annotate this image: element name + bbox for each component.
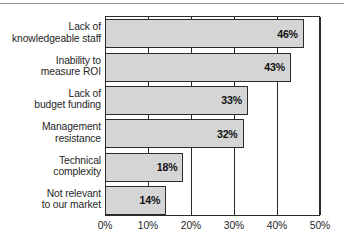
bar-chart-figure: Lack ofknowledgeable staffInability tome…: [0, 0, 344, 248]
category-label: Lack ofknowledgeable staff: [0, 21, 101, 44]
gridline-50: [320, 17, 321, 215]
x-tick-label: 10%: [138, 220, 158, 231]
bar: 14%: [105, 186, 166, 215]
category-label-line: complexity: [0, 166, 101, 177]
bar-value-label: 43%: [264, 61, 285, 73]
bar: 32%: [105, 119, 244, 148]
x-tick-label: 0%: [98, 220, 113, 231]
category-label-line: knowledgeable staff: [0, 33, 101, 44]
x-tick-label: 50%: [310, 220, 330, 231]
category-label-line: Not relevant: [0, 188, 101, 199]
x-tick-label: 30%: [224, 220, 244, 231]
bar-value-label: 33%: [221, 94, 242, 106]
bar: 33%: [105, 86, 248, 115]
bar-value-label: 14%: [140, 194, 161, 206]
x-tick-label: 20%: [181, 220, 201, 231]
category-label: Not relevantto our market: [0, 188, 101, 211]
category-label-line: to our market: [0, 199, 101, 210]
bar-value-label: 18%: [157, 161, 178, 173]
category-label-line: Lack of: [0, 88, 101, 99]
bar: 43%: [105, 53, 291, 82]
category-label: Inability tomeasure ROI: [0, 55, 101, 78]
bars-group: 46%43%33%32%18%14%: [106, 17, 319, 215]
category-label: Lack ofbudget funding: [0, 88, 101, 111]
bar: 18%: [105, 153, 183, 182]
category-label: Technicalcomplexity: [0, 155, 101, 178]
bar-value-label: 32%: [217, 128, 238, 140]
category-label-line: Inability to: [0, 55, 101, 66]
category-label-line: Lack of: [0, 21, 101, 32]
bar-value-label: 46%: [277, 28, 298, 40]
category-labels-column: Lack ofknowledgeable staffInability tome…: [0, 16, 101, 216]
category-label-line: Management: [0, 121, 101, 132]
category-label-line: resistance: [0, 133, 101, 144]
plot-area: 46%43%33%32%18%14%: [105, 16, 320, 216]
x-axis-tick-labels: 0%10%20%30%40%50%: [105, 220, 320, 236]
category-label-line: budget funding: [0, 99, 101, 110]
category-label: Managementresistance: [0, 121, 101, 144]
category-label-line: measure ROI: [0, 66, 101, 77]
x-tick-label: 40%: [267, 220, 287, 231]
top-horizontal-rule: [0, 3, 344, 4]
category-label-line: Technical: [0, 155, 101, 166]
bar: 46%: [105, 19, 304, 48]
